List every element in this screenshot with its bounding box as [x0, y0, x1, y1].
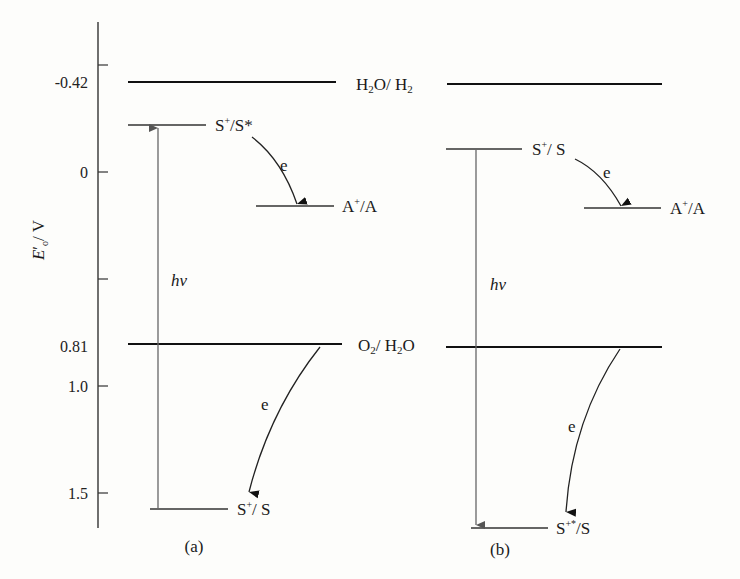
label-s-plus-s-b: S+/ S — [532, 139, 566, 159]
caption-b: (b) — [490, 540, 510, 559]
svg-text:E′o/ V: E′o/ V — [29, 219, 50, 261]
electron-transfer-arrow-1-b — [575, 159, 621, 206]
label-s-plus-star-s: S+*/S — [556, 518, 590, 538]
panel-b: S+/ S A+/A S+*/S hν e e (b) — [446, 139, 706, 559]
hv-label-b: hν — [490, 275, 507, 294]
electron-label-2: e — [261, 395, 269, 414]
hv-label-a: hν — [171, 271, 188, 290]
tick-label-0: 0 — [80, 164, 88, 181]
label-o2-h2o: O2/ H2O — [358, 336, 415, 356]
tick-label-minus-0.42: -0.42 — [55, 74, 88, 91]
caption-a: (a) — [185, 537, 204, 556]
label-h2o-h2: H2O/ H2 — [356, 75, 413, 95]
panel-a: S+/S* A+/A S+/ S hν e e (a) — [128, 115, 378, 556]
label-s-plus-s: S+/ S — [237, 499, 271, 519]
label-s-plus-s-star: S+/S* — [215, 115, 253, 135]
label-a-plus-a-b: A+/A — [670, 198, 706, 218]
label-a-plus-a: A+/A — [342, 196, 378, 216]
electron-label-2-b: e — [568, 417, 576, 436]
electron-label-1: e — [280, 156, 288, 175]
axis-title: E′o/ V — [29, 219, 50, 261]
level-o2-h2o: O2/ H2O — [128, 336, 662, 356]
electron-transfer-arrow-1 — [252, 137, 297, 204]
level-h2o-h2: H2O/ H2 — [128, 75, 662, 95]
electron-transfer-arrow-2 — [249, 347, 320, 492]
y-axis: -0.42 0 0.81 1.0 1.5 E′o/ V — [29, 22, 108, 528]
energy-level-diagram: -0.42 0 0.81 1.0 1.5 E′o/ V H2O/ H2 O2/ … — [0, 0, 740, 579]
electron-label-1-b: e — [603, 163, 611, 182]
tick-label-1.5: 1.5 — [68, 485, 88, 502]
tick-label-1.0: 1.0 — [68, 378, 88, 395]
tick-label-0.81: 0.81 — [60, 338, 88, 355]
